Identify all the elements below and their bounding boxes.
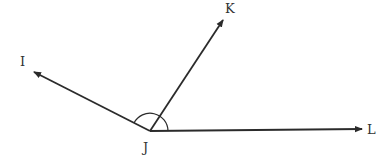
ray-ji bbox=[34, 72, 150, 131]
ray-jl bbox=[150, 129, 362, 131]
point-label-l: L bbox=[367, 122, 376, 137]
point-label-j: J bbox=[141, 140, 148, 155]
angle-diagram: I K J L bbox=[0, 0, 392, 155]
ray-jk bbox=[150, 20, 223, 131]
point-label-k: K bbox=[225, 1, 235, 16]
point-label-i: I bbox=[20, 54, 25, 69]
